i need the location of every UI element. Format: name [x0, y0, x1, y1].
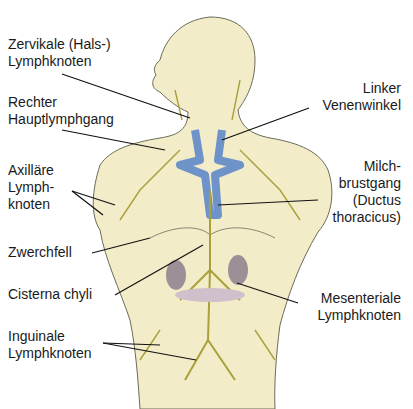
label-zwerchfell: Zwerchfell [8, 244, 72, 261]
left-kidney [228, 255, 248, 285]
label-linker-venenwinkel: Linker Venenwinkel [322, 80, 401, 114]
label-mesenteriale-lymphknoten: Mesenteriale Lymphknoten [317, 290, 401, 324]
label-cisterna-chyli: Cisterna chyli [8, 286, 92, 303]
mesenteric-nodes [175, 288, 245, 302]
label-rechter-hauptlymphgang: Rechter Hauptlymphgang [8, 94, 114, 128]
lymphatic-system-diagram: Zervikale (Hals-) Lymphknoten Rechter Ha… [0, 0, 413, 409]
label-axillaere-lymphknoten: Axilläre Lymph- knoten [8, 162, 54, 213]
label-milchbrustgang: Milch- brustgang (Ductus thoracicus) [333, 158, 401, 226]
label-zervikale-lymphknoten: Zervikale (Hals-) Lymphknoten [8, 36, 111, 70]
label-inguinale-lymphknoten: Inguinale Lymphknoten [8, 328, 92, 362]
